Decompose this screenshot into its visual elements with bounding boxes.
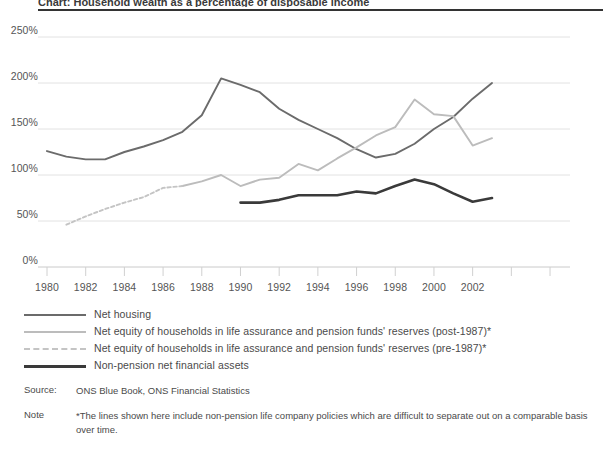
note-text: *The lines shown here include non-pensio… xyxy=(76,409,594,437)
source-label: Source: xyxy=(24,384,76,398)
note-label: Note xyxy=(24,409,76,437)
legend-swatch-icon xyxy=(24,342,86,354)
x-axis-label: 1986 xyxy=(143,281,183,293)
x-axis-label: 1998 xyxy=(375,281,415,293)
legend-label: Net equity of households in life assuran… xyxy=(94,325,491,337)
legend-item[interactable]: Net equity of households in life assuran… xyxy=(24,340,584,356)
chart-plot-area: 0%50%100%150%200%250%1980198219841986198… xyxy=(0,0,615,300)
x-axis-label: 1988 xyxy=(182,281,222,293)
legend-swatch-icon xyxy=(24,325,86,337)
y-axis-label: 0% xyxy=(2,254,38,266)
series-line-2 xyxy=(66,186,182,225)
y-axis-label: 150% xyxy=(2,116,38,128)
series-line-1 xyxy=(182,100,492,186)
y-axis-label: 100% xyxy=(2,162,38,174)
y-axis-label: 250% xyxy=(2,24,38,36)
series-line-3 xyxy=(240,180,492,203)
x-axis-label: 1984 xyxy=(104,281,144,293)
source-row: Source: ONS Blue Book, ONS Financial Sta… xyxy=(24,384,594,398)
x-axis-label: 1996 xyxy=(337,281,377,293)
legend-label: Net equity of households in life assuran… xyxy=(94,342,487,354)
legend-swatch-icon xyxy=(24,308,86,320)
x-axis-label: 2002 xyxy=(453,281,493,293)
x-axis-label: 1994 xyxy=(298,281,338,293)
x-axis-label: 1990 xyxy=(220,281,260,293)
y-axis-label: 50% xyxy=(2,208,38,220)
x-axis-label: 1980 xyxy=(27,281,67,293)
note-row: Note *The lines shown here include non-p… xyxy=(24,409,594,437)
x-axis-label: 1992 xyxy=(259,281,299,293)
legend-swatch-icon xyxy=(24,359,86,371)
y-axis-label: 200% xyxy=(2,70,38,82)
source-text: ONS Blue Book, ONS Financial Statistics xyxy=(76,384,594,398)
line-chart-svg xyxy=(0,0,615,300)
x-axis-label: 2000 xyxy=(414,281,454,293)
chart-footer: Source: ONS Blue Book, ONS Financial Sta… xyxy=(24,384,594,447)
legend-label: Non-pension net financial assets xyxy=(94,359,249,371)
chart-legend: Net housingNet equity of households in l… xyxy=(24,306,584,374)
legend-item[interactable]: Net equity of households in life assuran… xyxy=(24,323,584,339)
series-line-0 xyxy=(47,78,492,159)
legend-item[interactable]: Non-pension net financial assets xyxy=(24,357,584,373)
legend-item[interactable]: Net housing xyxy=(24,306,584,322)
x-axis-label: 1982 xyxy=(66,281,106,293)
legend-label: Net housing xyxy=(94,308,151,320)
